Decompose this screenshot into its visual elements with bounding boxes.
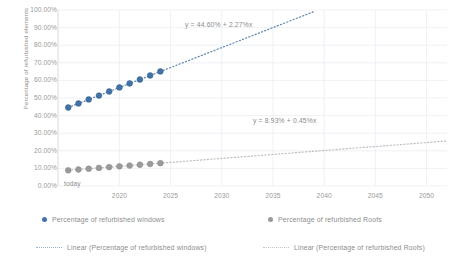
x-axis-tick: 2025 bbox=[151, 192, 191, 199]
trendline-equation-label: y = 44.60% + 2.27%x bbox=[185, 21, 252, 28]
data-point bbox=[147, 161, 153, 167]
legend-dotted-line-icon bbox=[263, 247, 289, 248]
legend-item-label: Percentage of refurbished windows bbox=[52, 216, 165, 223]
data-point bbox=[127, 163, 133, 169]
data-point bbox=[106, 89, 112, 95]
legend-dot-icon bbox=[42, 217, 47, 222]
data-point bbox=[137, 162, 143, 168]
x-axis-tick: 2040 bbox=[304, 192, 344, 199]
legend-item[interactable]: Linear (Percentage of refurbished Roofs) bbox=[263, 244, 425, 251]
data-point bbox=[137, 77, 143, 83]
legend-row-series: Percentage of refurbished windowsPercent… bbox=[0, 212, 461, 238]
data-point bbox=[106, 164, 112, 170]
x-axis-tick: 2020 bbox=[99, 192, 139, 199]
data-point bbox=[76, 167, 82, 173]
data-point bbox=[65, 167, 71, 173]
data-point bbox=[96, 93, 102, 99]
legend-item[interactable]: Percentage of refurbished windows bbox=[42, 216, 165, 223]
data-point bbox=[96, 165, 102, 171]
data-point bbox=[157, 160, 163, 166]
data-point bbox=[86, 97, 92, 103]
trendline-equation-label: y = 8.93% + 0.45%x bbox=[253, 117, 317, 124]
chart-container: Percentage of refurbished elements 100.0… bbox=[0, 0, 461, 270]
data-point bbox=[147, 73, 153, 79]
data-point bbox=[117, 85, 123, 91]
x-axis-origin-label: today bbox=[64, 180, 81, 187]
legend-row-trendlines: Linear (Percentage of refurbished window… bbox=[0, 240, 461, 266]
data-point bbox=[157, 69, 163, 75]
data-point bbox=[117, 163, 123, 169]
data-point bbox=[127, 80, 133, 86]
legend-item-label: Linear (Percentage of refurbished Roofs) bbox=[294, 244, 425, 251]
legend-item-label: Percentage of refurbished Roofs bbox=[278, 216, 382, 223]
legend-item[interactable]: Percentage of refurbished Roofs bbox=[268, 216, 382, 223]
x-axis-tick: 2035 bbox=[253, 192, 293, 199]
trendline bbox=[68, 141, 447, 170]
x-axis-tick: 2050 bbox=[407, 192, 447, 199]
legend-item[interactable]: Linear (Percentage of refurbished window… bbox=[36, 244, 207, 251]
x-axis-tick: 2045 bbox=[355, 192, 395, 199]
data-point bbox=[65, 105, 71, 111]
data-point bbox=[86, 166, 92, 172]
legend-item-label: Linear (Percentage of refurbished window… bbox=[67, 244, 207, 251]
data-point bbox=[76, 101, 82, 107]
legend-dot-icon bbox=[268, 217, 273, 222]
x-axis-tick: 2030 bbox=[202, 192, 242, 199]
legend-dotted-line-icon bbox=[36, 247, 62, 248]
chart-legend: Percentage of refurbished windowsPercent… bbox=[0, 212, 461, 270]
